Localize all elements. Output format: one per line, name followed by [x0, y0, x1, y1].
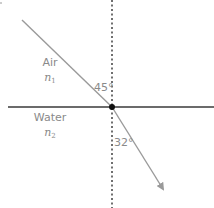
refraction-angle-label: 32°	[114, 137, 134, 148]
incidence-angle-label: 45°	[94, 82, 114, 93]
water-label: Water	[34, 112, 67, 123]
incidence-point	[109, 104, 115, 110]
water-index-label: n2	[44, 127, 56, 140]
refraction-diagram: Air n1 45° Water n2 32°	[0, 0, 214, 208]
air-label: Air	[42, 57, 57, 68]
air-index-label: n1	[44, 72, 56, 85]
diagram-canvas	[0, 0, 214, 208]
